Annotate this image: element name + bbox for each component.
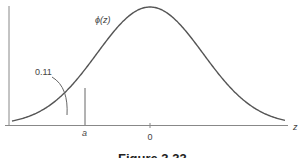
figure-caption: Figure 3.33 (118, 151, 187, 158)
area-label: 0.11 (35, 67, 52, 77)
tick-label-zero: 0 (148, 132, 153, 142)
normal-curve (12, 7, 285, 121)
area-leader-line (52, 77, 67, 115)
x-axis-label: z (292, 122, 298, 132)
curve-label: ϕ(z) (95, 15, 111, 25)
tick-label-a: a (82, 128, 87, 138)
normal-distribution-figure: ϕ(z) 0.11 a 0 z Figure 3.33 (0, 0, 304, 158)
